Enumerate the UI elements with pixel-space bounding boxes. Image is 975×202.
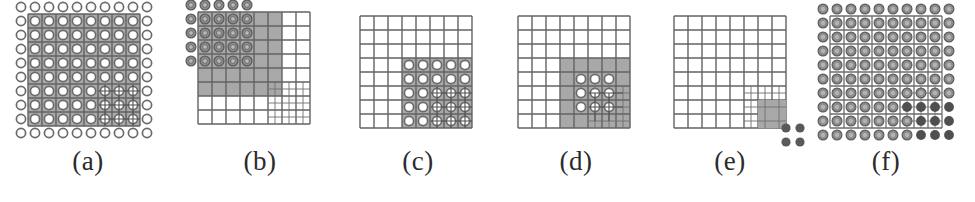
panel-b: (b) — [180, 0, 340, 202]
panel-d: (d) — [496, 0, 656, 202]
panel-c: (c) — [338, 0, 498, 202]
panel-b-label: (b) — [180, 148, 340, 175]
panel-d-label: (d) — [496, 148, 656, 175]
node-dot-grid — [781, 123, 804, 146]
panel-e-canvas — [650, 0, 810, 160]
panel-f-canvas — [806, 0, 966, 160]
panel-e-label: (e) — [650, 148, 810, 175]
panel-e: (e) — [650, 0, 810, 202]
figure-six-panel-mesh-refinement: (a) — [0, 0, 975, 202]
panel-c-canvas — [338, 0, 498, 160]
panel-a-canvas — [8, 0, 168, 160]
coarse-grid — [830, 16, 942, 128]
shaded-region — [758, 100, 786, 128]
panel-a-label: (a) — [8, 148, 168, 175]
panel-b-canvas — [180, 0, 340, 160]
panel-f: (f) — [806, 0, 966, 202]
panel-d-canvas — [496, 0, 656, 160]
panel-c-label: (c) — [338, 148, 498, 175]
panel-f-label: (f) — [806, 148, 966, 175]
panel-a: (a) — [8, 0, 168, 202]
